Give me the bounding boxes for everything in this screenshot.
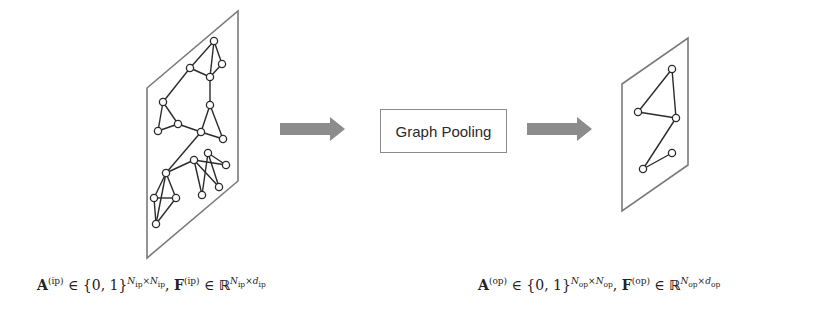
- adjacency-superscript: (ip): [48, 276, 64, 286]
- feature-superscript: (op): [632, 276, 650, 286]
- reals-exponent: Nop×dop: [680, 276, 720, 286]
- right-arrow-icon: [527, 117, 592, 141]
- adjacency-superscript: (op): [489, 276, 507, 286]
- feature-superscript: (ip): [184, 276, 200, 286]
- graph-node: [204, 149, 211, 156]
- graph-node: [206, 73, 213, 80]
- graph-edge: [201, 105, 210, 132]
- comma: ,: [165, 277, 169, 293]
- graph-node: [215, 183, 222, 190]
- reals-exponent: Nip×dip: [230, 276, 266, 286]
- adjacency-symbol: A: [478, 277, 489, 293]
- set-exponent: Nop×Nop: [571, 276, 613, 286]
- element-of-symbol: ∈: [204, 277, 214, 293]
- graph-node: [190, 156, 197, 163]
- graph-node: [174, 120, 181, 127]
- graph-pooling-box: Graph Pooling: [380, 109, 507, 153]
- set-exponent: Nip×Nip: [127, 276, 165, 286]
- comma: ,: [613, 277, 617, 293]
- graph-node: [206, 101, 213, 108]
- graph-node: [219, 135, 226, 142]
- feature-symbol: F: [622, 277, 632, 293]
- output-formula: A(op) ∈ {0, 1}Nop×Nop, F(op) ∈ ℝNop×dop: [478, 276, 720, 293]
- adjacency-symbol: A: [37, 277, 48, 293]
- reals-symbol: ℝ: [219, 277, 230, 293]
- graph-node: [152, 220, 159, 227]
- graph-edge: [210, 105, 223, 139]
- graph-node: [162, 169, 169, 176]
- binary-set: {0, 1}: [83, 277, 128, 293]
- graph-plane: [622, 38, 688, 211]
- graph-node: [154, 127, 161, 134]
- graph-edge: [158, 102, 163, 131]
- graph-node: [668, 65, 675, 72]
- graph-plane: [147, 11, 238, 258]
- diagram-canvas: [0, 0, 840, 317]
- graph-node: [197, 128, 204, 135]
- input-formula: A(ip) ∈ {0, 1}Nip×Nip, F(ip) ∈ ℝNip×dip: [37, 276, 266, 293]
- graph-node: [150, 194, 157, 201]
- graph-node: [222, 161, 229, 168]
- reals-symbol: ℝ: [669, 277, 680, 293]
- graph-edge: [638, 112, 676, 118]
- feature-symbol: F: [174, 277, 184, 293]
- graph-edge: [190, 41, 214, 68]
- graph-node: [634, 108, 641, 115]
- graph-node: [639, 165, 646, 172]
- output-graph: [622, 38, 688, 211]
- graph-edge: [672, 69, 676, 118]
- graph-edge: [638, 69, 672, 112]
- element-of-symbol: ∈: [654, 277, 664, 293]
- right-arrow-icon: [280, 117, 345, 141]
- graph-node: [668, 149, 675, 156]
- graph-node: [172, 194, 179, 201]
- element-of-symbol: ∈: [512, 277, 522, 293]
- graph-edge: [163, 68, 190, 102]
- graph-edge: [210, 41, 214, 77]
- graph-edge: [643, 118, 676, 169]
- graph-node: [210, 37, 217, 44]
- graph-node: [186, 64, 193, 71]
- input-graph: [147, 11, 238, 258]
- graph-edge: [166, 160, 194, 173]
- graph-node: [198, 191, 205, 198]
- graph-node: [218, 60, 225, 67]
- binary-set: {0, 1}: [526, 277, 571, 293]
- graph-node: [159, 98, 166, 105]
- graph-pooling-label: Graph Pooling: [396, 123, 492, 140]
- graph-node: [672, 114, 679, 121]
- element-of-symbol: ∈: [68, 277, 78, 293]
